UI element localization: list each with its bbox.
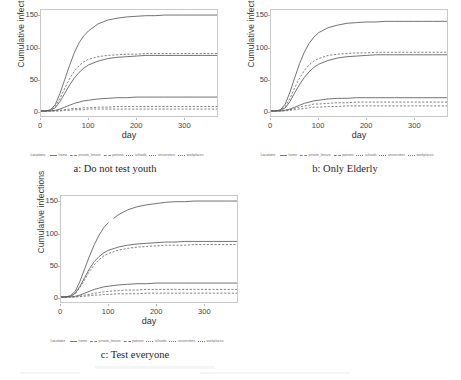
series-line-private_leisure: [41, 54, 217, 111]
legend: Locationshomeprivate_leisurepatronsschoo…: [32, 336, 242, 346]
panel-caption: b: Only Elderly: [232, 163, 458, 174]
legend-item-label: private_leisure: [79, 153, 101, 157]
legend-item-label: schools: [155, 339, 167, 343]
legend-key-icon: [280, 155, 287, 156]
series-line-schools: [271, 98, 447, 111]
legend-key-icon: [70, 155, 77, 156]
legend-item-label: private_leisure: [99, 339, 121, 343]
legend-item-label: universities: [158, 153, 175, 157]
x-tick-mark: [88, 118, 89, 120]
legend-title: Locations: [51, 339, 66, 343]
y-tick-label: 150: [24, 196, 58, 205]
x-tick-label: 100: [73, 121, 103, 130]
legend-item-private_leisure: private_leisure: [300, 153, 331, 157]
legend-item-home: home: [280, 153, 297, 157]
legend-item-label: patrons: [342, 153, 353, 157]
x-tick-mark: [366, 118, 367, 120]
legend-item-label: workplaces: [206, 339, 223, 343]
legend-key-icon: [146, 341, 153, 342]
x-axis-label: day: [40, 130, 218, 140]
x-tick-label: 200: [121, 121, 151, 130]
x-tick-mark: [184, 118, 185, 120]
y-axis-ticks: 050100150: [2, 9, 38, 117]
legend-item-workplaces: workplaces: [178, 153, 203, 157]
series-line-workplaces: [61, 293, 237, 297]
legend-key-icon: [408, 155, 415, 156]
y-tick-label: 50: [234, 75, 268, 84]
panel-b-figure: Cumulative infections 050100150 01002003…: [232, 0, 458, 165]
legend-item-label: patrons: [112, 153, 123, 157]
x-tick-mark: [414, 118, 415, 120]
legend-item-label: private_leisure: [309, 153, 331, 157]
legend: Locationshomeprivate_leisurepatronsschoo…: [12, 150, 222, 160]
legend: Locationshomeprivate_leisurepatronsschoo…: [242, 150, 452, 160]
x-tick-mark: [40, 118, 41, 120]
y-axis-ticks: 050100150: [22, 195, 58, 303]
x-tick-label: 100: [303, 121, 333, 130]
y-tick-label: 50: [24, 261, 58, 270]
x-tick-label: 200: [141, 307, 171, 316]
scan-artifact: [109, 214, 114, 228]
legend-item-label: home: [289, 153, 297, 157]
legend-key-icon: [124, 341, 131, 342]
legend-item-private_leisure: private_leisure: [70, 153, 101, 157]
x-tick-label: 300: [189, 307, 219, 316]
legend-item-label: universities: [388, 153, 405, 157]
x-tick-mark: [204, 304, 205, 306]
x-axis-label: day: [60, 316, 238, 326]
legend-item-patrons: patrons: [124, 339, 144, 343]
legend-title: Locations: [261, 153, 276, 157]
legend-item-label: schools: [135, 153, 147, 157]
y-tick-label: 50: [4, 75, 38, 84]
x-tick-mark: [318, 118, 319, 120]
panel-a: Cumulative infections 050100150 01002003…: [2, 0, 228, 186]
legend-item-universities: universities: [149, 153, 174, 157]
legend-item-schools: schools: [356, 153, 376, 157]
legend-item-workplaces: workplaces: [198, 339, 223, 343]
x-tick-label: 100: [93, 307, 123, 316]
plot-area: [60, 195, 238, 303]
legend-item-label: home: [59, 153, 67, 157]
scan-artifact: [95, 366, 215, 369]
y-tick-label: 100: [234, 43, 268, 52]
legend-item-schools: schools: [126, 153, 146, 157]
plot-lines: [271, 10, 447, 116]
legend-key-icon: [169, 341, 176, 342]
y-tick-label: 0: [4, 107, 38, 116]
legend-key-icon: [126, 155, 133, 156]
plot-lines: [61, 196, 237, 302]
series-line-workplaces: [41, 109, 217, 111]
series-line-home: [61, 201, 237, 297]
series-line-private_leisure: [61, 241, 237, 297]
legend-item-label: workplaces: [186, 153, 203, 157]
plot-area: [40, 9, 218, 117]
legend-item-universities: universities: [169, 339, 194, 343]
scan-artifact: [20, 372, 80, 374]
legend-item-private_leisure: private_leisure: [90, 339, 121, 343]
legend-item-universities: universities: [379, 153, 404, 157]
legend-key-icon: [70, 341, 77, 342]
legend-key-icon: [379, 155, 386, 156]
y-axis-ticks: 050100150: [232, 9, 268, 117]
y-tick-label: 150: [4, 10, 38, 19]
x-tick-mark: [60, 304, 61, 306]
legend-key-icon: [104, 155, 111, 156]
legend-key-icon: [149, 155, 156, 156]
legend-key-icon: [300, 155, 307, 156]
legend-item-home: home: [50, 153, 67, 157]
x-tick-mark: [156, 304, 157, 306]
legend-item-label: home: [79, 339, 87, 343]
x-tick-label: 200: [351, 121, 381, 130]
legend-key-icon: [50, 155, 57, 156]
legend-item-schools: schools: [146, 339, 166, 343]
x-tick-mark: [108, 304, 109, 306]
panel-c-figure: Cumulative infections 050100150 01002003…: [22, 186, 248, 351]
panel-c: Cumulative infections 050100150 01002003…: [22, 186, 248, 372]
x-tick-mark: [270, 118, 271, 120]
legend-key-icon: [334, 155, 341, 156]
legend-item-label: universities: [178, 339, 195, 343]
legend-item-label: patrons: [132, 339, 143, 343]
x-tick-label: 300: [399, 121, 429, 130]
series-line-home: [41, 15, 217, 111]
y-tick-label: 100: [4, 43, 38, 52]
